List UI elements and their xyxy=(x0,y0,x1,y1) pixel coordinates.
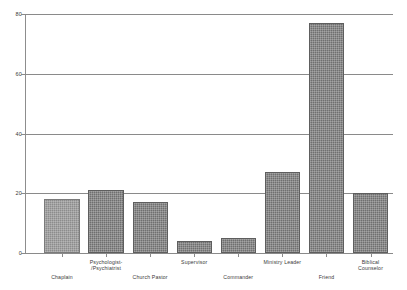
x-axis-label-4: Commander xyxy=(223,274,253,280)
y-axis-labels: 020406080 xyxy=(0,0,22,290)
y-tick-label-60: 60 xyxy=(2,71,22,77)
bar-5 xyxy=(265,172,300,253)
y-tick-mark-60 xyxy=(21,74,25,75)
y-tick-mark-20 xyxy=(21,193,25,194)
x-axis-label-0: Chaplain xyxy=(51,274,73,280)
y-tick-label-20: 20 xyxy=(2,190,22,196)
bar-chart: 020406080 ChaplainPsychologist- /Psychia… xyxy=(0,0,407,290)
y-tick-mark-40 xyxy=(21,134,25,135)
x-axis-label-6: Friend xyxy=(319,274,335,280)
y-tick-label-0: 0 xyxy=(2,250,22,256)
x-axis-line xyxy=(25,253,393,254)
bar-2 xyxy=(133,202,168,253)
bar-4 xyxy=(221,238,256,253)
x-axis-label-7: Biblical Counselor xyxy=(352,259,388,272)
bar-6 xyxy=(309,23,344,253)
y-tick-mark-80 xyxy=(21,14,25,15)
x-axis-label-2: Church Pastor xyxy=(133,274,168,280)
plot-area xyxy=(25,14,393,253)
y-tick-label-80: 80 xyxy=(2,11,22,17)
bar-7 xyxy=(353,193,388,253)
bar-0 xyxy=(44,199,79,253)
y-tick-label-40: 40 xyxy=(2,131,22,137)
x-axis-label-5: Ministry Leader xyxy=(264,259,302,265)
x-axis-label-1: Psychologist- /Psychiatrist xyxy=(90,259,123,272)
bar-3 xyxy=(177,241,212,253)
bar-1 xyxy=(88,190,123,253)
x-axis-label-3: Supervisor xyxy=(181,259,207,265)
